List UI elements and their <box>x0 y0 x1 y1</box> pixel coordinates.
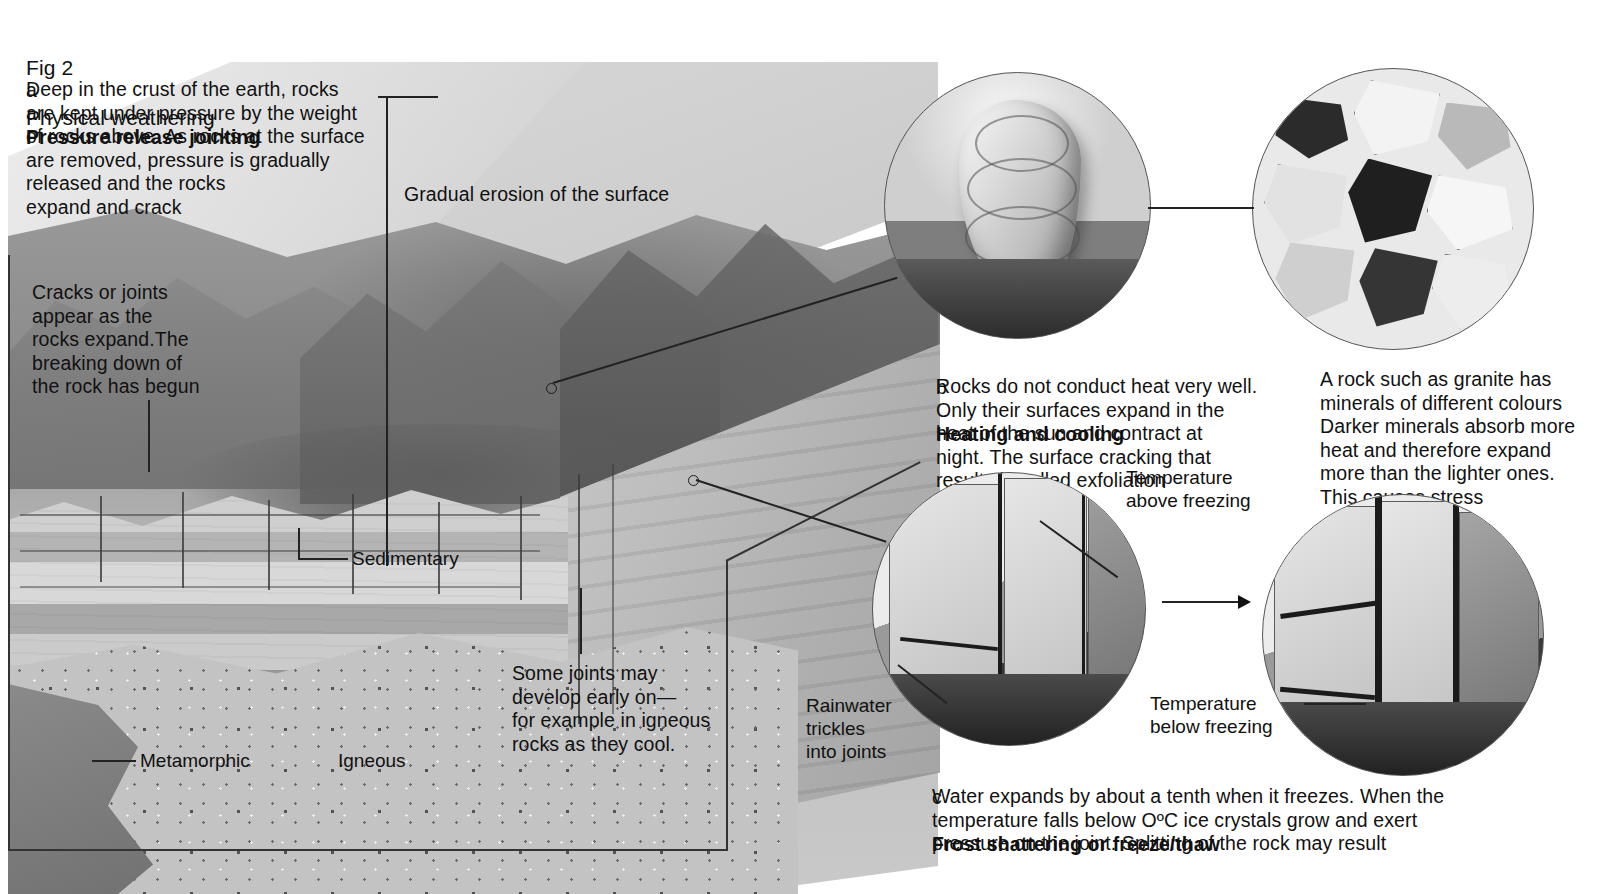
mineral-crystal-mid <box>1275 243 1359 321</box>
mineral-crystal-dark <box>1348 159 1432 243</box>
mineral-crystal-dark <box>1359 248 1437 326</box>
mineral-crystal-light <box>1432 254 1512 329</box>
label-rainwater: Rainwater trickles into joints <box>806 694 892 763</box>
bedding-plane <box>20 550 540 552</box>
block-edge-bottom <box>8 849 728 851</box>
label-temperature-below: Temperature below freezing <box>1150 692 1273 738</box>
label-sedimentary: Sedimentary <box>352 547 459 570</box>
section-c-body: Water expands by about a tenth when it f… <box>932 785 1582 856</box>
joint-line <box>520 496 522 600</box>
label-igneous: Igneous <box>338 749 406 772</box>
boulder-ground <box>885 259 1150 339</box>
leader-line-cracks <box>148 400 150 472</box>
photo-granite-crystals <box>1252 68 1534 350</box>
callout-granite-minerals: A rock such as granite has minerals of d… <box>1320 368 1600 509</box>
mineral-crystal-light <box>1354 80 1440 155</box>
shadow-base <box>873 674 1145 745</box>
leader-line-granite <box>1148 207 1254 209</box>
callout-cracks-or-joints: Cracks or joints appear as the rocks exp… <box>32 281 272 399</box>
joint-line <box>352 494 354 594</box>
mineral-crystal-light <box>1427 175 1513 250</box>
callout-gradual-erosion: Gradual erosion of the surface <box>404 183 724 207</box>
leader-line-some-joints <box>580 588 582 654</box>
leader-line-temp-below <box>1304 703 1366 705</box>
section-a-body: Deep in the crust of the earth, rocks ar… <box>26 78 436 219</box>
mineral-crystal-dark <box>1275 97 1348 159</box>
bedding-plane <box>20 586 520 588</box>
bedding-plane <box>20 514 540 516</box>
leader-line-metamorphic <box>92 760 136 762</box>
mineral-crystal-light <box>1264 164 1350 244</box>
label-temperature-above: Temperature above freezing <box>1126 466 1251 512</box>
photo-joint-below-freezing <box>1262 494 1544 776</box>
joint-line <box>182 492 184 588</box>
mineral-crystal-mid <box>1438 103 1511 170</box>
label-metamorphic: Metamorphic <box>140 749 250 772</box>
process-arrow-head <box>1238 595 1251 609</box>
process-arrow-shaft <box>1162 601 1240 603</box>
joint-line <box>100 496 102 582</box>
leader-line-sedimentary <box>300 558 348 560</box>
leader-line-sedimentary-v <box>298 528 300 560</box>
photo-joint-above-freezing <box>872 472 1146 746</box>
leader-line-pressure-b <box>386 96 388 566</box>
callout-anchor-dot-boulder <box>546 383 557 394</box>
photo-exfoliation-boulder <box>884 72 1151 339</box>
block-edge-left <box>8 255 10 851</box>
callout-some-joints: Some joints may develop early on— for ex… <box>512 662 744 756</box>
